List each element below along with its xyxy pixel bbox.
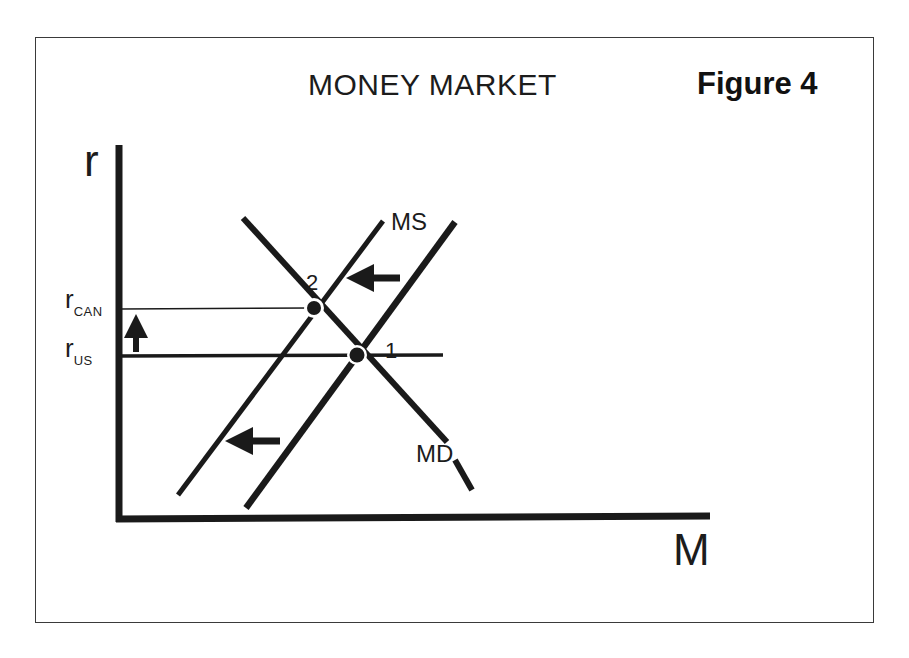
point-1-label: 1 [385, 338, 397, 364]
r-us-label: rUS [65, 333, 93, 364]
y-axis-label: r [84, 136, 99, 186]
md-curve-tail [455, 460, 472, 490]
r-can-line [120, 308, 310, 309]
x-axis-label: M [673, 525, 710, 575]
equilibrium-point-2 [307, 301, 321, 315]
r-can-base: r [65, 284, 74, 314]
r-can-sub: CAN [74, 304, 103, 319]
md-curve [243, 218, 447, 442]
money-market-chart [0, 0, 909, 658]
point-2-label: 2 [306, 270, 318, 296]
ms-label: MS [391, 208, 427, 236]
equilibrium-point-1 [350, 348, 365, 363]
r-can-label: rCAN [65, 284, 103, 315]
r-us-base: r [65, 333, 74, 363]
x-axis [116, 516, 710, 519]
r-us-sub: US [74, 353, 93, 368]
md-label: MD [416, 440, 453, 468]
